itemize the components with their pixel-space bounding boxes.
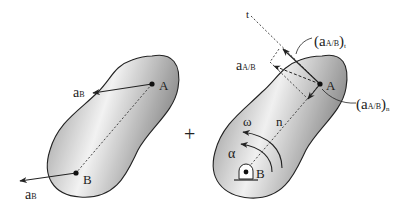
tangential-accel-label: (aA/B)t (314, 33, 346, 50)
omega-label: ω (243, 114, 252, 129)
right-point-a (317, 81, 322, 86)
left-point-a (149, 81, 154, 86)
t-axis-label: t (246, 8, 249, 20)
left-label-a: A (159, 78, 169, 93)
left-label-b: B (83, 172, 92, 187)
right-body: A B t n ω α aA/B (aA/B)t (aA/B)n (213, 8, 390, 198)
right-label-a: A (326, 78, 336, 93)
left-body: A B aB aB (20, 55, 179, 202)
tangential-leader-line (296, 38, 312, 54)
alpha-label: α (228, 146, 236, 161)
normal-accel-label: (aA/B)n (356, 96, 390, 113)
left-body-shape (47, 55, 179, 197)
rigid-body-acceleration-diagram: A B aB aB + A B t (0, 0, 416, 211)
left-accel-b-label: aB (25, 187, 37, 202)
left-point-b (73, 170, 78, 175)
n-axis-label: n (276, 114, 283, 129)
right-label-b: B (256, 166, 265, 181)
construction-line-1 (270, 49, 279, 62)
relative-accel-label: aA/B (236, 58, 256, 73)
left-accel-a-label: aB (73, 85, 85, 100)
plus-operator: + (184, 123, 195, 145)
